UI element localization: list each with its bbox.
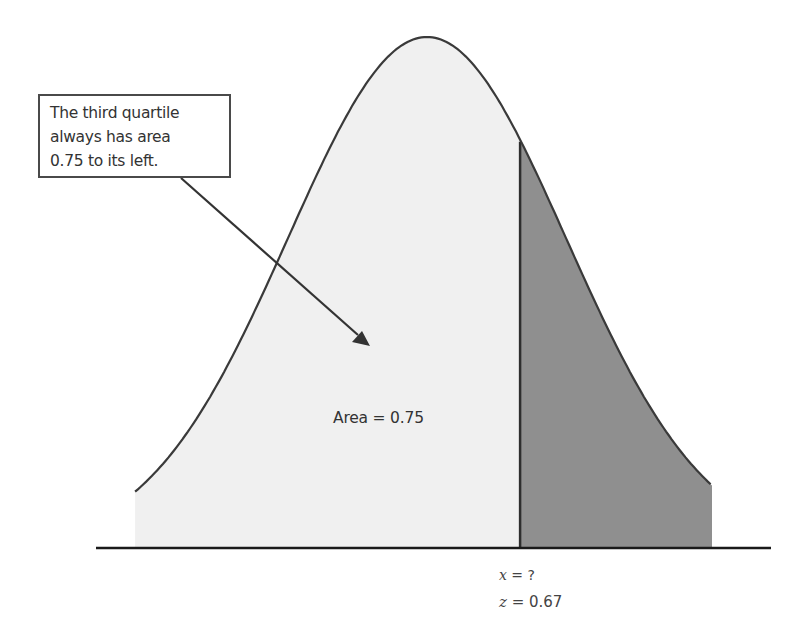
callout-line: The third quartile — [50, 101, 229, 125]
x-value-label: x = ? — [499, 567, 535, 583]
callout-box: The third quartile always has area 0.75 … — [38, 94, 231, 178]
callout-line: always has area — [50, 125, 229, 149]
area-label: Area = 0.75 — [333, 409, 424, 427]
z-variable: z — [499, 593, 507, 611]
x-value: = ? — [507, 567, 535, 583]
callout-line: 0.75 to its left. — [50, 149, 229, 173]
z-score-label: z = 0.67 — [499, 593, 562, 611]
x-variable: x — [499, 567, 507, 583]
z-value: = 0.67 — [507, 593, 563, 611]
